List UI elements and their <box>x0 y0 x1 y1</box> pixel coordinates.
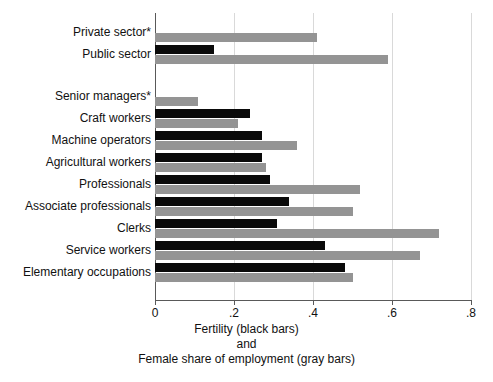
bar-female-share <box>155 185 360 194</box>
bar-row <box>155 263 471 285</box>
gridline-p8 <box>471 13 472 300</box>
bar-female-share <box>155 229 439 238</box>
bar-row <box>155 175 471 197</box>
x-axis-title-line-2: and <box>0 337 493 352</box>
bar-fertility <box>155 153 262 162</box>
x-axis-tick-label: .2 <box>219 306 249 320</box>
x-axis-tick <box>392 300 393 305</box>
x-axis-tick-label: .4 <box>298 306 328 320</box>
bar-row <box>155 153 471 175</box>
y-axis-label: Agricultural workers <box>3 156 155 168</box>
x-axis-tick-label: .6 <box>377 306 407 320</box>
bar-female-share <box>155 141 297 150</box>
bar-row <box>155 23 471 45</box>
bar-female-share <box>155 97 198 106</box>
y-axis-label: Service workers <box>3 244 155 256</box>
y-axis-label: Public sector <box>3 48 155 60</box>
y-axis-label: Machine operators <box>3 134 155 146</box>
bar-fertility <box>155 109 250 118</box>
x-axis-tick <box>155 300 156 305</box>
bar-row <box>155 219 471 241</box>
y-axis-label: Clerks <box>3 222 155 234</box>
y-axis-labels: Private sector*Public sectorSenior manag… <box>0 13 155 300</box>
bar-row <box>155 241 471 263</box>
bar-fertility <box>155 197 289 206</box>
y-axis-label: Elementary occupations <box>3 266 155 278</box>
bar-fertility <box>155 219 277 228</box>
x-axis-title-line-1: Fertility (black bars) <box>0 322 493 337</box>
bar-row <box>155 45 471 67</box>
chart-figure: Private sector*Public sectorSenior manag… <box>0 0 493 382</box>
y-axis-label: Private sector* <box>3 26 155 38</box>
x-axis-tick-label: 0 <box>140 306 170 320</box>
bar-fertility <box>155 241 325 250</box>
y-axis-label: Craft workers <box>3 112 155 124</box>
bar-row <box>155 87 471 109</box>
y-axis-label: Professionals <box>3 178 155 190</box>
y-axis-label: Senior managers* <box>3 90 155 102</box>
x-axis-title-line-3: Female share of employment (gray bars) <box>0 352 493 367</box>
x-axis-tick-label: .8 <box>456 306 486 320</box>
x-axis-tick <box>313 300 314 305</box>
bar-female-share <box>155 273 353 282</box>
bar-female-share <box>155 163 266 172</box>
bar-fertility <box>155 45 214 54</box>
x-axis-tick <box>234 300 235 305</box>
bar-female-share <box>155 119 238 128</box>
bar-female-share <box>155 251 420 260</box>
bar-row <box>155 131 471 153</box>
bar-female-share <box>155 33 317 42</box>
bar-female-share <box>155 207 353 216</box>
bar-row <box>155 109 471 131</box>
bar-fertility <box>155 131 262 140</box>
bar-row <box>155 197 471 219</box>
x-axis-title: Fertility (black bars) and Female share … <box>0 322 493 367</box>
x-axis-tick <box>471 300 472 305</box>
bar-fertility <box>155 263 345 272</box>
plot-area <box>155 13 471 300</box>
bar-female-share <box>155 55 388 64</box>
y-axis-label: Associate professionals <box>3 200 155 212</box>
bar-fertility <box>155 175 270 184</box>
